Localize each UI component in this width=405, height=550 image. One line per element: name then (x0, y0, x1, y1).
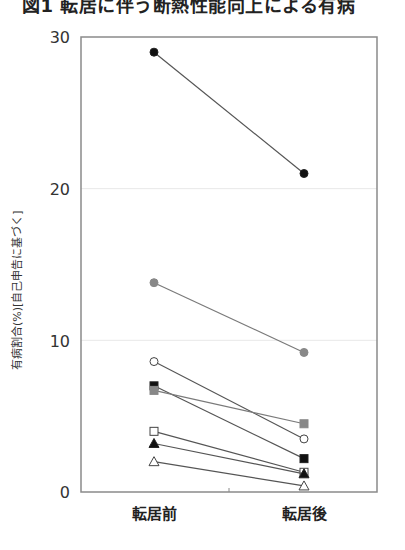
gray-circle-circle-marker-icon (150, 279, 158, 287)
open-circle-circle-marker-icon (300, 435, 308, 443)
series-open-triangle (149, 457, 309, 490)
line-chart: 0 10 20 30 転居前 転居後 (0, 0, 405, 550)
y-tick-30: 30 (50, 28, 70, 47)
data-series (149, 48, 309, 490)
gray-square-square-marker-icon (300, 420, 308, 428)
y-tick-0: 0 (60, 483, 70, 502)
open-triangle-triangle-marker-icon (149, 457, 159, 466)
series-line (154, 362, 304, 439)
series-gray-square (150, 386, 308, 427)
black-circle-circle-marker-icon (300, 170, 308, 178)
y-tick-10: 10 (50, 332, 70, 351)
series-open-square (150, 427, 308, 476)
x-label-before: 転居前 (132, 505, 177, 523)
open-circle-circle-marker-icon (150, 358, 158, 366)
series-line (154, 462, 304, 486)
black-circle-circle-marker-icon (150, 48, 158, 56)
series-line (154, 431, 304, 472)
series-line (154, 283, 304, 353)
black-triangle-triangle-marker-icon (149, 438, 159, 447)
series-line (154, 52, 304, 173)
series-line (154, 390, 304, 423)
black-square-square-marker-icon (300, 455, 308, 463)
gray-square-square-marker-icon (150, 386, 158, 394)
series-black-triangle (149, 438, 309, 477)
x-label-after: 転居後 (282, 505, 328, 523)
series-black-square (150, 382, 308, 463)
y-axis-ticks: 0 10 20 30 (50, 28, 70, 502)
gray-circle-circle-marker-icon (300, 348, 308, 356)
open-square-square-marker-icon (150, 427, 158, 435)
plot-frame (81, 37, 377, 492)
y-axis-title: 有病割合(%)[自己申告に基づく] (8, 210, 24, 370)
series-black-circle (150, 48, 308, 177)
series-gray-circle (150, 279, 308, 357)
series-open-circle (150, 358, 308, 443)
y-tick-20: 20 (50, 180, 70, 199)
